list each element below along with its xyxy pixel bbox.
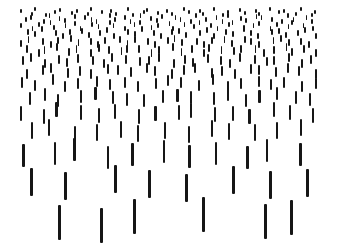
texture-stroke [214, 107, 216, 122]
texture-stroke [222, 13, 224, 17]
texture-stroke [138, 109, 140, 124]
texture-stroke [202, 197, 205, 232]
texture-stroke [52, 74, 54, 85]
texture-stroke [183, 65, 185, 75]
texture-stroke [96, 76, 98, 87]
texture-stroke [74, 21, 76, 26]
texture-stroke [212, 74, 214, 85]
texture-stroke [273, 37, 275, 44]
texture-stroke [26, 45, 28, 53]
texture-stroke [185, 32, 187, 38]
texture-stroke [20, 23, 22, 28]
texture-stroke [163, 140, 166, 163]
texture-stroke [114, 17, 116, 22]
texture-stroke [32, 26, 34, 31]
texture-stroke [246, 146, 249, 169]
texture-stroke [273, 56, 275, 65]
texture-stroke [178, 105, 180, 120]
texture-stroke [308, 41, 310, 48]
texture-stroke [30, 53, 32, 62]
texture-stroke [62, 33, 64, 39]
texture-stroke [112, 91, 114, 104]
texture-stroke [92, 56, 94, 65]
texture-stroke [139, 20, 141, 25]
texture-stroke [206, 27, 208, 33]
texture-stroke [250, 64, 252, 74]
texture-stroke [45, 13, 47, 17]
texture-stroke [166, 9, 168, 13]
texture-stroke [153, 30, 155, 36]
texture-stroke [266, 57, 268, 66]
texture-stroke [311, 19, 313, 24]
texture-stroke [27, 29, 29, 35]
texture-stroke [263, 49, 265, 57]
texture-stroke [117, 65, 119, 75]
texture-stroke [108, 46, 110, 54]
texture-stroke [66, 58, 68, 67]
texture-stroke [96, 124, 98, 141]
texture-stroke [300, 7, 302, 11]
texture-stroke [240, 16, 242, 21]
texture-stroke [114, 104, 116, 119]
texture-stroke [222, 19, 224, 24]
texture-stroke [178, 28, 180, 34]
texture-stroke [100, 208, 103, 243]
texture-stroke [41, 26, 43, 32]
texture-stroke [234, 69, 236, 79]
texture-stroke [64, 81, 66, 92]
texture-stroke [220, 56, 222, 65]
texture-stroke [98, 108, 100, 123]
texture-stroke [59, 16, 61, 21]
texture-stroke [244, 36, 246, 43]
texture-stroke [208, 44, 210, 52]
texture-stroke [287, 63, 289, 73]
texture-stroke [198, 80, 200, 91]
texture-stroke [243, 26, 245, 32]
texture-stroke [228, 22, 230, 27]
texture-stroke [162, 90, 164, 103]
texture-stroke [130, 67, 132, 77]
texture-stroke [99, 30, 101, 36]
texture-stroke [199, 9, 201, 13]
texture-stroke [173, 59, 175, 68]
texture-stroke [171, 69, 173, 79]
texture-stroke [44, 59, 46, 68]
texture-stroke [180, 17, 182, 22]
texture-stroke [151, 49, 153, 57]
texture-stroke [131, 143, 134, 166]
texture-stroke [171, 12, 173, 16]
texture-stroke [232, 106, 234, 121]
texture-stroke [148, 170, 151, 198]
texture-stroke [309, 93, 311, 106]
texture-stroke [151, 25, 153, 30]
texture-stroke [289, 105, 291, 120]
texture-stroke [269, 171, 272, 199]
texture-stroke [273, 102, 275, 117]
texture-stroke [113, 23, 115, 28]
texture-stroke [278, 28, 280, 34]
texture-stroke [184, 55, 186, 64]
texture-stroke [196, 38, 198, 45]
texture-stroke [288, 24, 290, 29]
texture-stroke [244, 11, 246, 15]
texture-stroke [114, 165, 117, 193]
texture-stroke [164, 122, 166, 139]
texture-stroke [124, 26, 126, 31]
texture-stroke [258, 65, 260, 75]
texture-stroke [167, 75, 169, 86]
texture-stroke [138, 45, 140, 53]
texture-stroke [132, 13, 134, 17]
texture-stroke [98, 24, 100, 29]
texture-stroke [137, 125, 139, 142]
texture-stroke [104, 37, 106, 44]
texture-stroke [119, 36, 121, 43]
texture-stroke [77, 54, 79, 63]
texture-stroke [154, 106, 156, 121]
texture-stroke [195, 13, 197, 18]
texture-stroke [300, 119, 302, 136]
texture-stroke [291, 20, 293, 25]
texture-stroke [293, 17, 295, 22]
texture-stroke [34, 80, 36, 91]
texture-stroke [254, 55, 256, 64]
texture-stroke [44, 88, 46, 101]
